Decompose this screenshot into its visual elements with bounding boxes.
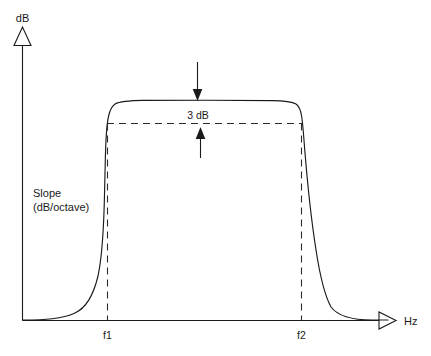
bandpass-filter-diagram: dB Hz f1 f2 3 dB Slope (dB/octave) <box>0 0 431 356</box>
x-axis-label: Hz <box>404 315 417 327</box>
tick-label-f2: f2 <box>297 329 306 341</box>
y-axis-label: dB <box>16 12 29 24</box>
slope-label-line2: (dB/octave) <box>33 201 89 213</box>
filter-response-plot: dB Hz f1 f2 3 dB Slope (dB/octave) <box>0 0 431 356</box>
y-axis-group <box>14 27 31 321</box>
three-db-label: 3 dB <box>187 109 209 121</box>
tick-label-f1: f1 <box>103 329 112 341</box>
slope-label-line1: Slope <box>33 187 61 199</box>
up-arrow-icon <box>196 127 206 158</box>
up-triangle-open-icon <box>14 27 31 46</box>
down-arrow-icon <box>193 62 203 101</box>
